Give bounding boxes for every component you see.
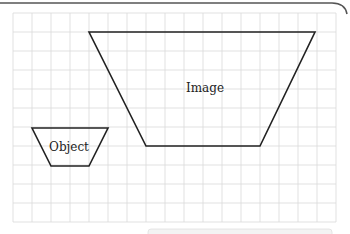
bottom-panel [148, 229, 332, 234]
frame-border [0, 3, 347, 14]
image-label: Image [186, 81, 224, 95]
object-label: Object [49, 140, 89, 154]
grid [13, 13, 336, 222]
diagram-canvas: Image Object [0, 0, 350, 234]
